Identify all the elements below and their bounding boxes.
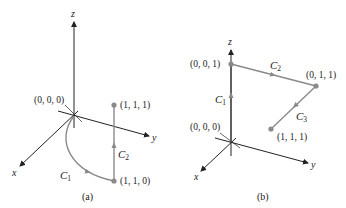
x-axis-label: x [193,171,199,182]
panel-b: z y x (0, 0, 0) C1 C2 C3 (0, 0, 1) (0, 1… [190,36,336,203]
curve-label-c1: C1 [215,93,226,107]
curve-label-c2: C2 [270,59,281,73]
y-axis-label: y [151,132,157,143]
y-axis-label: y [310,159,316,170]
point-label-1-1-1: (1, 1, 1) [120,100,150,111]
z-axis-label: z [227,36,232,47]
curve-c1 [66,116,114,181]
point-0-1-1 [313,83,318,88]
curve-label-c1: C1 [60,169,71,183]
point-1-1-0 [111,178,116,183]
point-label-origin: (0, 0, 0) [34,95,64,106]
curve-label-c3: C3 [296,110,307,124]
point-1-1-1 [111,102,116,107]
point-label-0-1-1: (0, 1, 1) [306,70,336,81]
x-axis-label: x [11,167,17,178]
panel-caption-a: (a) [82,191,93,203]
z-axis-label: z [70,8,75,19]
panel-a: z y x (0, 0, 0) C1 C2 (1, 1, 1) (1, 1, 0… [11,8,157,203]
point-label-0-0-1: (0, 0, 1) [190,59,220,70]
point-1-1-1 [268,126,273,131]
point-0-0-1 [228,61,233,66]
diagram-canvas: z y x (0, 0, 0) C1 C2 (1, 1, 1) (1, 1, 0… [0,0,346,208]
panel-caption-b: (b) [257,191,269,203]
point-label-1-1-1: (1, 1, 1) [277,132,307,143]
point-label-1-1-0: (1, 1, 0) [120,176,150,187]
curve-label-c2: C2 [118,148,129,162]
x-axis [20,111,78,166]
point-label-origin: (0, 0, 0) [190,122,220,133]
curve-c3 [271,86,316,129]
y-axis [58,111,149,136]
